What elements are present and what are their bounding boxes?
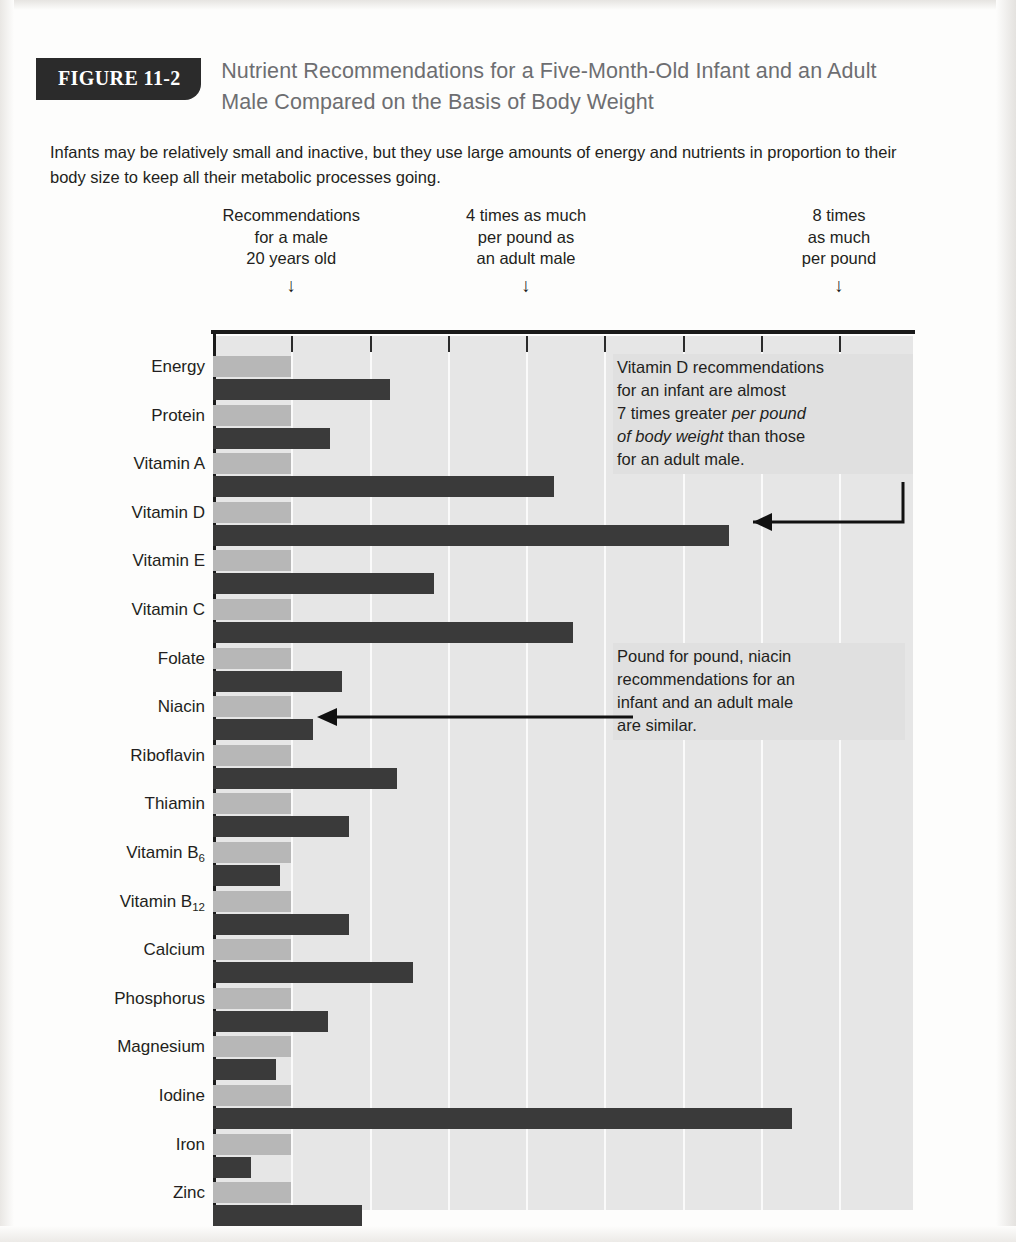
bar-adult-niacin [213,696,291,717]
bar-adult-vitamin-e [213,550,291,571]
down-arrow-icon: ↓ [764,276,914,295]
bar-adult-energy [213,356,291,377]
bar-row [213,842,913,888]
bar-adult-zinc [213,1182,291,1203]
x-tick-1 [291,336,293,352]
figure-title: Nutrient Recommendations for a Five-Mont… [221,56,911,118]
x-tick-4 [526,336,528,352]
page-bottom-edge [0,1226,1016,1242]
bar-row [213,1036,913,1082]
bar-row [213,1182,913,1228]
y-label-iodine: Iodine [159,1086,205,1106]
x-tick-8 [839,336,841,352]
callout-line-3: 20 years old [246,249,336,267]
bar-infant-iron [213,1157,251,1178]
top-callout-1: Recommendationsfor a male20 years old↓ [186,205,396,295]
bar-infant-folate [213,671,342,692]
bar-infant-vitamin-a [213,476,554,497]
callout-line-1: Recommendations [222,206,360,224]
bar-row [213,793,913,839]
x-tick-5 [604,336,606,352]
y-label-iron: Iron [176,1135,205,1155]
y-label-vitamin-e: Vitamin E [133,551,205,571]
bar-adult-folate [213,648,291,669]
bar-row [213,988,913,1034]
page-top-edge [0,0,1016,10]
x-axis-line [211,330,915,334]
bar-row [213,891,913,937]
bar-adult-vitamin-c [213,599,291,620]
bar-infant-riboflavin [213,768,397,789]
bar-infant-vitamin-b- [213,914,349,935]
y-label-vitamin-b-: Vitamin B12 [120,892,205,913]
bar-adult-vitamin-b- [213,842,291,863]
bar-row [213,1085,913,1131]
bar-adult-thiamin [213,793,291,814]
vitamin-d-annotation: Vitamin D recommendationsfor an infant a… [613,354,913,474]
y-label-vitamin-b-: Vitamin B6 [126,843,205,864]
y-label-phosphorus: Phosphorus [114,989,205,1009]
y-label-zinc: Zinc [173,1183,205,1203]
bar-infant-phosphorus [213,1011,328,1032]
callout-line-1: 4 times as much [466,206,586,224]
y-label-riboflavin: Riboflavin [130,746,205,766]
bar-adult-vitamin-d [213,502,291,523]
page-right-edge [996,0,1016,1242]
callout-line-3: an adult male [476,249,575,267]
figure-subtitle: Infants may be relatively small and inac… [50,140,930,190]
y-label-magnesium: Magnesium [117,1037,205,1057]
bar-row [213,599,913,645]
bar-adult-phosphorus [213,988,291,1009]
bar-adult-riboflavin [213,745,291,766]
bar-infant-vitamin-d [213,525,729,546]
figure-header: FIGURE 11-2 Nutrient Recommendations for… [36,56,936,118]
x-tick-2 [370,336,372,352]
x-tick-7 [761,336,763,352]
callout-line-3: per pound [802,249,876,267]
bar-row [213,1134,913,1180]
bar-adult-iodine [213,1085,291,1106]
figure-number-badge: FIGURE 11-2 [36,58,201,100]
bar-adult-vitamin-b- [213,891,291,912]
callout-line-2: as much [808,228,870,246]
bar-row [213,550,913,596]
bar-infant-vitamin-c [213,622,573,643]
down-arrow-icon: ↓ [186,276,396,295]
y-label-protein: Protein [151,406,205,426]
bar-adult-protein [213,405,291,426]
callout-line-2: for a male [255,228,328,246]
bar-infant-energy [213,379,390,400]
y-label-energy: Energy [151,357,205,377]
bar-chart: Vitamin D recommendationsfor an infant a… [213,330,913,1210]
top-callout-3: 8 timesas muchper pound↓ [764,205,914,295]
bar-adult-magnesium [213,1036,291,1057]
bar-infant-thiamin [213,816,349,837]
y-label-folate: Folate [158,649,205,669]
top-callout-2: 4 times as muchper pound asan adult male… [436,205,616,295]
bar-adult-iron [213,1134,291,1155]
y-label-vitamin-d: Vitamin D [132,503,205,523]
bar-adult-calcium [213,939,291,960]
bar-adult-vitamin-a [213,453,291,474]
bar-infant-vitamin-b- [213,865,280,886]
vitamin-d-leader-line [728,480,913,540]
bar-infant-calcium [213,962,413,983]
y-label-calcium: Calcium [144,940,205,960]
bar-row [213,745,913,791]
niacin-leader-line [313,704,643,730]
bar-row [213,939,913,985]
y-label-thiamin: Thiamin [145,794,205,814]
y-label-niacin: Niacin [158,697,205,717]
down-arrow-icon: ↓ [436,276,616,295]
y-axis-labels: EnergyProteinVitamin AVitamin DVitamin E… [0,330,205,1210]
bar-infant-magnesium [213,1059,276,1080]
callout-line-2: per pound as [478,228,574,246]
x-tick-3 [448,336,450,352]
bar-infant-zinc [213,1205,362,1226]
bar-infant-protein [213,428,330,449]
y-label-vitamin-a: Vitamin A [133,454,205,474]
niacin-annotation: Pound for pound, niacinrecommendations f… [613,643,905,740]
y-label-vitamin-c: Vitamin C [132,600,205,620]
bar-infant-iodine [213,1108,792,1129]
callout-line-1: 8 times [812,206,865,224]
